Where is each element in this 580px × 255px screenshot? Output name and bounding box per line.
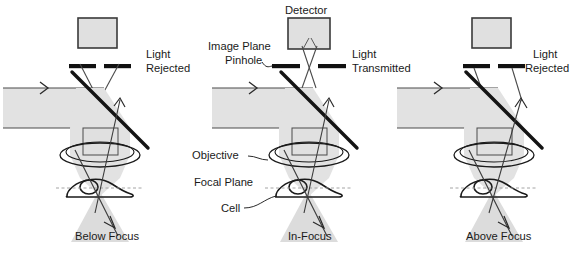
- detector-box: [472, 18, 511, 48]
- confocal-diagram-figure: Light Rejected Below Focus Detector: [0, 0, 580, 255]
- panel-above-focus: Light Rejected Above Focus: [397, 18, 569, 242]
- pinhole-bar-left: [463, 64, 490, 68]
- detector-box: [288, 18, 330, 49]
- light-transmitted-label-line2: Transmitted: [352, 62, 411, 74]
- image-plane-label: Image Plane: [208, 40, 271, 52]
- diagram-canvas: Light Rejected Below Focus Detector: [0, 0, 580, 255]
- light-rejected-label-line2: Rejected: [146, 62, 190, 74]
- light-transmitted-label-line1: Light: [352, 48, 377, 60]
- light-rejected-label-line2: Rejected: [525, 62, 569, 74]
- detector-box: [78, 18, 117, 48]
- pinhole-label: Pinhole: [225, 54, 262, 66]
- cell-leader-line: [244, 196, 276, 208]
- cell-label: Cell: [221, 202, 240, 214]
- focal-plane-label: Focal Plane: [194, 176, 253, 188]
- objective-label: Objective: [192, 149, 239, 161]
- light-rejected-label-line1: Light: [533, 48, 558, 60]
- ray-right: [512, 68, 522, 101]
- panel-bottom-label: Below Focus: [75, 230, 139, 242]
- detector-label: Detector: [285, 4, 328, 16]
- panel-bottom-label: In-Focus: [288, 230, 332, 242]
- objective-leader-line: [248, 156, 268, 160]
- pinhole-bar-left: [272, 64, 300, 68]
- light-rejected-label-line1: Light: [146, 48, 171, 60]
- panel-in-focus: Detector Image Plane Pinhole Lig: [192, 4, 411, 242]
- pinhole-bar-right: [318, 64, 346, 68]
- pinhole-leader-line: [262, 62, 272, 67]
- panel-below-focus: Light Rejected Below Focus: [3, 18, 190, 242]
- pinhole-bar-left: [69, 64, 96, 68]
- panel-bottom-label: Above Focus: [466, 230, 532, 242]
- pinhole-bar-right: [498, 64, 525, 68]
